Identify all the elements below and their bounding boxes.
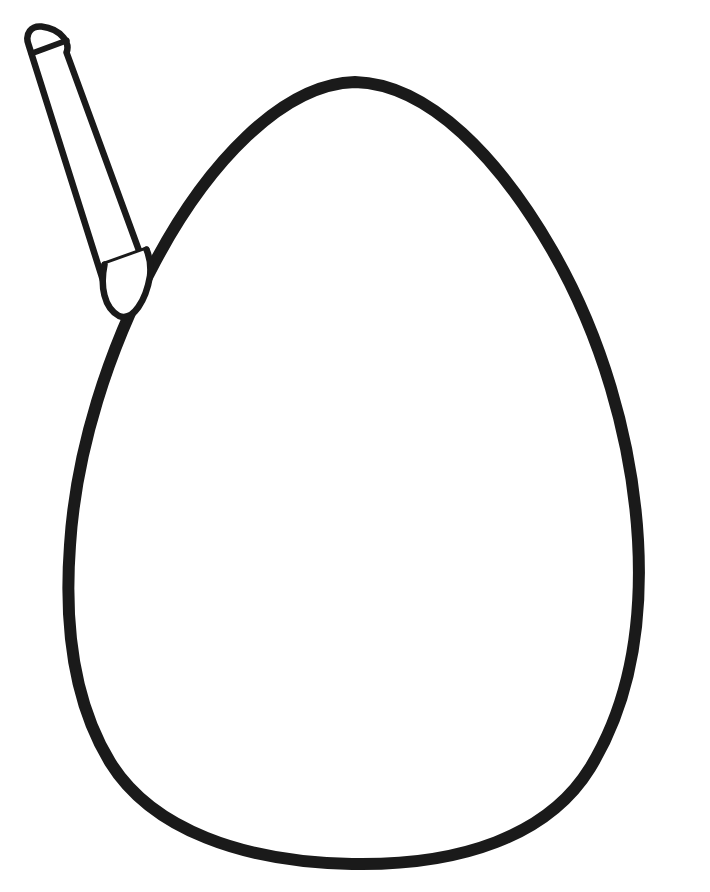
artboard (0, 0, 710, 892)
coloring-page-canvas: Egg Coloring Page Blank egg outline with… (0, 0, 710, 892)
